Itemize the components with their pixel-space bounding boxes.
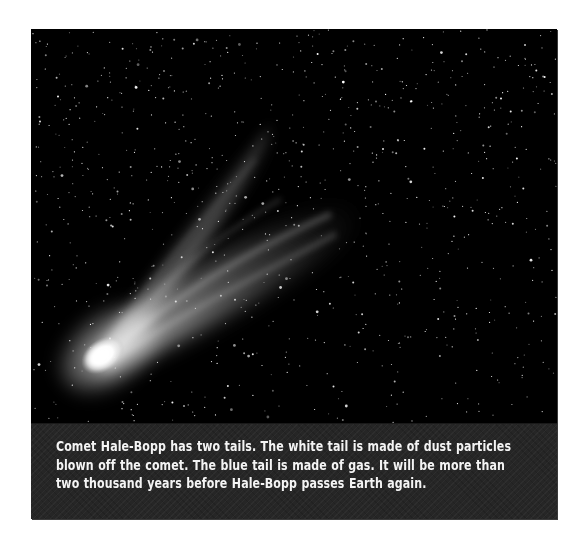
figure-frame: Comet Hale-Bopp has two tails. The white… bbox=[31, 29, 557, 519]
caption-text: Comet Hale-Bopp has two tails. The white… bbox=[56, 438, 512, 494]
comet-photo bbox=[31, 29, 557, 423]
caption-box: Comet Hale-Bopp has two tails. The white… bbox=[31, 423, 557, 519]
